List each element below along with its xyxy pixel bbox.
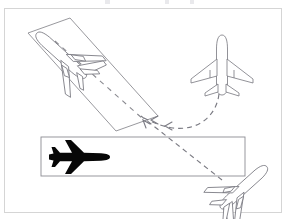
aircraft-movement-figure — [0, 0, 288, 219]
figure-canvas — [0, 0, 288, 219]
top-edge-artifacts — [105, 0, 194, 4]
